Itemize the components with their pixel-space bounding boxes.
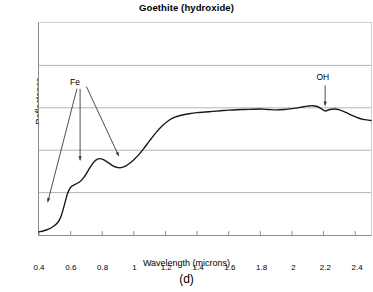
- chart-title: Goethite (hydroxide): [0, 2, 373, 13]
- figure-container: Goethite (hydroxide) Reflectance 00.20.4…: [0, 0, 373, 292]
- annotation-label-fe: Fe: [70, 77, 80, 87]
- annotation-arrows: [39, 23, 371, 235]
- figure-caption: (d): [0, 272, 373, 286]
- plot-area: 00.20.40.60.81 0.40.60.811.21.41.61.822.…: [38, 22, 372, 236]
- annotation-label-oh: OH: [316, 72, 329, 82]
- x-axis-title: Wavelength (microns): [0, 258, 373, 268]
